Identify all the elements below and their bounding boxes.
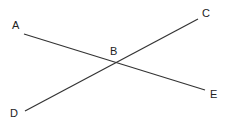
label-e: E [210, 89, 217, 100]
label-a: A [12, 20, 19, 31]
diagram: A B C D E [0, 0, 233, 124]
label-c: C [202, 8, 210, 19]
segment-AE [24, 34, 205, 90]
segment-DC [25, 19, 198, 111]
lines [0, 0, 233, 124]
label-b: B [110, 46, 117, 57]
label-d: D [10, 108, 18, 119]
